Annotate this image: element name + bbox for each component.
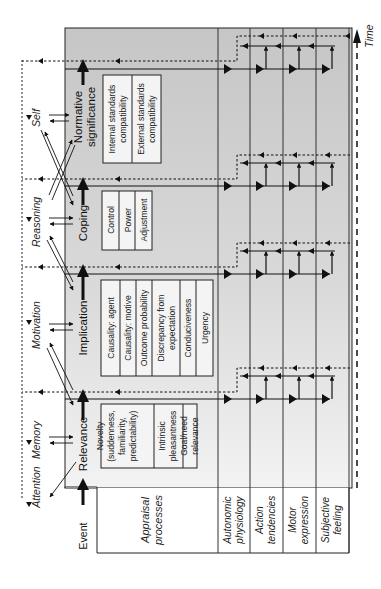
checks-table-relevance: Novelty (suddenness, familiarity, predic… <box>95 404 200 468</box>
check-outcome-probability: Outcome probability <box>139 289 149 366</box>
label-memory: Memory <box>30 420 42 459</box>
check-external-standards-line2: compatibility <box>147 95 157 143</box>
lane-action-line1: Action <box>254 506 265 535</box>
lane-motor-line1: Motor <box>287 507 298 533</box>
check-novelty-line3: familiarity, <box>117 417 127 455</box>
appraisal-label-line1: Appraisal <box>139 497 151 544</box>
label-attention: Attention <box>30 466 42 509</box>
appraisal-label-line2: processes <box>152 494 164 546</box>
stage-label-relevance: Relevance <box>77 417 89 471</box>
check-novelty-line4: predictability) <box>128 411 138 462</box>
check-novelty: Novelty <box>95 421 105 450</box>
check-discrepancy-line2: expectation <box>167 306 177 350</box>
label-self: Self <box>30 108 42 127</box>
check-intrinsic-pleasantness: Intrinsic <box>157 420 167 450</box>
check-intrinsic-pleasantness-line2: pleasantness <box>168 411 178 462</box>
label-motivation: Motivation <box>30 301 42 349</box>
check-goal-relevance: Goal/need <box>179 416 189 456</box>
check-control: Control <box>106 206 116 234</box>
stage-label-implication: Implication <box>77 301 89 356</box>
check-external-standards: External standards <box>136 83 146 155</box>
lane-subjective-line2: feeling <box>332 505 343 535</box>
checks-table-coping: Control Power Adjustment <box>102 191 152 250</box>
event-label: Event <box>77 522 89 549</box>
lane-action-line2: tendencies <box>266 496 277 544</box>
stage-label-normative-1: Normative <box>72 91 84 143</box>
label-reasoning: Reasoning <box>30 197 42 247</box>
checks-table-implication: Causality: agent Causality: motive Outco… <box>101 280 213 376</box>
check-causality-motive: Causality: motive <box>123 295 133 361</box>
lane-autonomic-line1: Autonomic <box>222 496 233 544</box>
time-axis: Time <box>353 24 375 488</box>
check-conduciveness: Conduciveness <box>183 299 193 358</box>
lane-label-autonomic: Autonomic physiology <box>222 495 245 544</box>
check-power: Power <box>123 208 133 232</box>
checks-table-normative: Internal standards compatibility Externa… <box>103 75 161 163</box>
check-internal-standards-line2: compatibility <box>118 95 128 143</box>
stage-label-coping: Coping <box>77 205 89 241</box>
stage-label-normative-2: significance <box>85 87 97 147</box>
lane-motor-line2: expression <box>299 495 310 544</box>
check-urgency: Urgency <box>200 311 210 344</box>
check-internal-standards: Internal standards <box>107 85 117 154</box>
appraisal-processes-label: Appraisal processes <box>139 494 164 546</box>
check-causality-agent: Causality: agent <box>106 297 116 359</box>
time-arrow-icon <box>353 29 361 43</box>
lane-subjective-line1: Subjective <box>320 496 331 543</box>
check-novelty-line2: (suddenness, <box>106 410 116 462</box>
check-adjustment: Adjustment <box>139 198 149 242</box>
check-goal-relevance-line2: relevance <box>190 417 200 454</box>
component-process-model-diagram: Attention Memory Motivation Reasoning Se… <box>0 0 381 589</box>
check-discrepancy: Discrepancy from <box>156 295 166 362</box>
lane-autonomic-line2: physiology <box>234 495 245 544</box>
time-label: Time <box>363 24 375 47</box>
